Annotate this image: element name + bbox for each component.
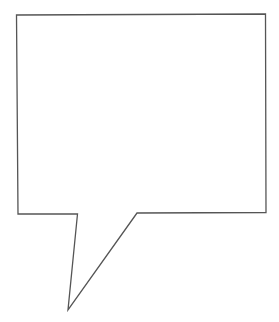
speech-bubble-shape	[17, 14, 267, 310]
diagram-canvas	[0, 0, 279, 322]
speech-bubble-diagram	[0, 0, 279, 322]
